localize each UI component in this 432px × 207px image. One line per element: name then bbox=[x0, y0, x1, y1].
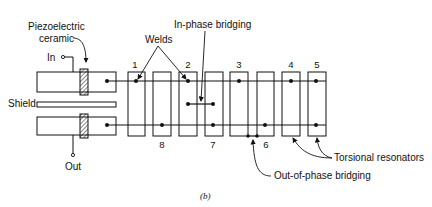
label-in-phase: In-phase bridging bbox=[174, 19, 251, 30]
num-7: 7 bbox=[210, 139, 215, 150]
weld-arrow-1 bbox=[138, 46, 158, 79]
in-phase-bridge bbox=[186, 102, 215, 106]
weld-arrow-2 bbox=[158, 46, 186, 79]
label-out: Out bbox=[65, 161, 81, 172]
label-in: In bbox=[47, 52, 55, 63]
in-phase-arrow bbox=[201, 31, 205, 101]
input-transducer bbox=[37, 69, 116, 95]
num-3: 3 bbox=[236, 59, 241, 70]
torsional-arrow-2 bbox=[317, 138, 332, 158]
num-2: 2 bbox=[185, 59, 190, 70]
num-8: 8 bbox=[159, 139, 164, 150]
shield bbox=[37, 102, 116, 107]
label-piezo-1: Piezoelectric bbox=[28, 21, 85, 32]
output-transducer bbox=[37, 114, 116, 138]
label-piezo-2: ceramic bbox=[39, 33, 74, 44]
out-of-phase-bridge bbox=[246, 134, 259, 138]
mechanical-filter-diagram: 1 2 3 4 5 8 7 6 Piezoelectric ceramic In… bbox=[0, 0, 432, 207]
in-lead bbox=[61, 55, 73, 72]
piezo-arrow bbox=[73, 38, 86, 62]
num-6: 6 bbox=[263, 139, 268, 150]
out-lead bbox=[71, 135, 74, 157]
piezo-ceramic-top bbox=[80, 69, 88, 95]
label-shield: Shield bbox=[8, 98, 36, 109]
label-out-of-phase: Out-of-phase bridging bbox=[274, 170, 371, 181]
label-welds: Welds bbox=[145, 34, 173, 45]
piezo-ceramic-bottom bbox=[80, 114, 88, 138]
torsional-arrow-1 bbox=[293, 138, 332, 158]
num-1: 1 bbox=[132, 59, 137, 70]
label-torsional: Torsional resonators bbox=[334, 152, 424, 163]
figure-caption: (b) bbox=[200, 191, 211, 201]
num-5: 5 bbox=[314, 59, 319, 70]
num-4: 4 bbox=[288, 59, 293, 70]
